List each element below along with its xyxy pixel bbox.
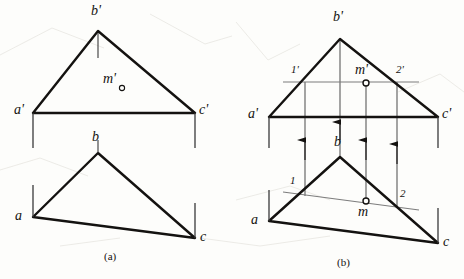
label-2: 2 [400, 187, 406, 199]
label-1: 1 [290, 174, 296, 186]
caption-a: (a) [104, 250, 116, 262]
point-m-prime-marker [363, 80, 369, 86]
engineering-drawing-figure: a' b' c' m' a b c a' b' c' 1' 2' m' a b … [0, 0, 464, 279]
label-m-prime-panel-b: m' [355, 62, 368, 78]
panel-a-group [33, 31, 195, 238]
panel-b-projectors [305, 39, 397, 207]
paper-texture [0, 14, 464, 246]
panel-b-top-view [269, 157, 438, 243]
label-c-prime-panel-a: c' [199, 102, 208, 118]
panel-a-front-view [33, 31, 195, 148]
label-b-prime-panel-a: b' [91, 3, 101, 19]
label-b-prime-panel-b: b' [333, 9, 343, 25]
label-c-prime-panel-b: c' [442, 106, 451, 122]
label-c-panel-a: c [200, 229, 206, 245]
top-view-triangle-abc [33, 153, 195, 238]
label-a-prime-panel-a: a' [14, 102, 24, 118]
caption-b: (b) [337, 256, 350, 268]
label-c-panel-b: c [443, 234, 449, 250]
label-a-prime-panel-b: a' [248, 106, 258, 122]
drawing-canvas [0, 0, 464, 279]
label-m-prime-panel-a: m' [103, 71, 116, 87]
label-a-panel-a: a [15, 208, 22, 224]
label-1-prime: 1' [291, 63, 299, 75]
label-2-prime: 2' [396, 63, 404, 75]
front-view-triangle-abc [269, 39, 438, 117]
panel-a-top-view [33, 140, 195, 238]
label-a-panel-b: a [251, 212, 258, 228]
top-view-triangle-abc [269, 157, 438, 243]
label-b-panel-b: b [334, 134, 341, 150]
panel-b-front-view [269, 39, 438, 148]
label-m-panel-b: m [358, 204, 368, 220]
point-m-prime-marker [119, 85, 124, 90]
label-b-panel-a: b [92, 129, 99, 145]
